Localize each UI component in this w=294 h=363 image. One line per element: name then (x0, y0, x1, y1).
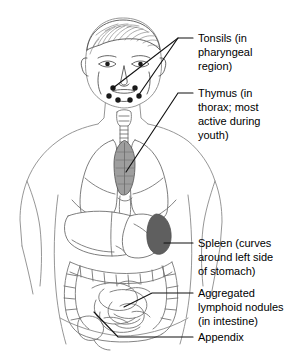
label-spleen: Spleen (curves around left side of stoma… (198, 237, 276, 277)
left-lung (80, 140, 118, 221)
spleen-organ (147, 214, 171, 254)
head-group (81, 18, 166, 108)
label-thymus: Thymus (in thorax; most active during yo… (198, 87, 263, 141)
label-aggregated-lymphoid-nodules: Aggregated lymphoid nodules (in intestin… (198, 287, 287, 327)
transverse-colon (70, 262, 172, 274)
anatomy-illustration: Tonsils (in pharyngeal region) Thymus (i… (0, 0, 294, 363)
tonsil-dot (115, 97, 120, 102)
label-tonsils: Tonsils (in pharyngeal region) (198, 32, 256, 72)
label-appendix: Appendix (198, 331, 244, 343)
body-figure (20, 18, 222, 350)
left-pupil (105, 62, 110, 67)
larynx-detail (119, 116, 129, 121)
transverse-colon-haustra (80, 266, 164, 286)
head-outline (86, 18, 162, 108)
tonsil-dot (127, 97, 132, 102)
anatomy-diagram: Tonsils (in pharyngeal region) Thymus (i… (0, 0, 294, 363)
larynx (117, 110, 132, 126)
tonsil-dot (106, 93, 111, 98)
tonsil-dot (132, 85, 137, 90)
right-lung (130, 140, 168, 221)
